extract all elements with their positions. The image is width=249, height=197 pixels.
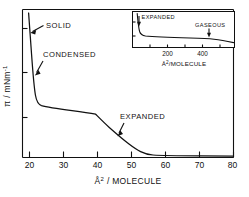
inset-x-axis-title: Å2/MOLECULE (162, 60, 207, 67)
annotation-condensed: CONDENSED (35, 50, 96, 75)
x-axis-tick-labels: 20 30 40 50 60 70 80 (25, 160, 238, 170)
svg-text:π / mNm-1: π / mNm-1 (2, 65, 12, 107)
inset-x-tick-label-400: 400 (197, 50, 208, 57)
svg-text:Å2 / MOLECULE: Å2 / MOLECULE (95, 176, 162, 186)
x-tick-label-80: 80 (228, 160, 238, 170)
annotation-expanded: EXPANDED (117, 112, 165, 136)
y-axis-ticks (23, 29, 28, 118)
figure-container: 20 30 40 50 60 70 80 Å2 / MOLECULE π / m… (0, 0, 249, 197)
x-axis-ticks (30, 152, 234, 158)
annotation-solid-arrow-line (33, 26, 44, 32)
inset-x-tick-label-200: 200 (162, 50, 173, 57)
annotation-expanded-arrow-head (117, 130, 123, 136)
annotation-expanded-arrow-line (119, 123, 124, 133)
annotation-condensed-label: CONDENSED (43, 50, 96, 59)
x-tick-label-70: 70 (195, 160, 205, 170)
x-axis-title-rest: / MOLECULE (104, 176, 161, 186)
inset-annotation-gaseous-label: GASEOUS (195, 22, 225, 28)
y-axis-title-text: π / mNm (2, 71, 12, 106)
annotation-condensed-arrow-line (37, 61, 44, 73)
y-axis-title-superscript: -1 (2, 65, 8, 71)
x-tick-label-60: 60 (161, 160, 171, 170)
inset-annotation-expanded-label: EXPANDED (142, 14, 176, 20)
annotation-solid: SOLID (30, 21, 71, 35)
x-tick-label-30: 30 (59, 160, 69, 170)
annotation-expanded-label: EXPANDED (120, 112, 165, 121)
inset-x-axis-title-rest: /MOLECULE (169, 60, 207, 67)
x-tick-label-20: 20 (25, 160, 35, 170)
isotherm-chart: 20 30 40 50 60 70 80 Å2 / MOLECULE π / m… (0, 0, 249, 197)
x-tick-label-40: 40 (93, 160, 103, 170)
y-axis-title: π / mNm-1 (2, 65, 12, 107)
annotation-solid-label: SOLID (46, 21, 71, 30)
x-axis-title: Å2 / MOLECULE (95, 176, 162, 186)
x-tick-label-50: 50 (127, 160, 137, 170)
inset-plot: EXPANDED GASEOUS 200 400 Å2/MOLECULE (133, 12, 235, 68)
